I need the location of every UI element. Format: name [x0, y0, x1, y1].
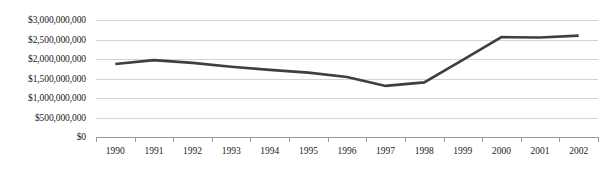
series-polyline — [115, 36, 578, 86]
x-axis-tick-label: 1991 — [144, 145, 163, 157]
x-axis-tick — [598, 137, 599, 142]
x-axis-tick-label: 1993 — [222, 145, 241, 157]
x-axis-tick-label: 1999 — [453, 145, 472, 157]
x-axis-tick-label: 1996 — [338, 145, 357, 157]
x-axis-tick — [366, 137, 367, 142]
y-axis-labels: $3,000,000,000$2,500,000,000$2,000,000,0… — [0, 0, 92, 172]
line-chart: $3,000,000,000$2,500,000,000$2,000,000,0… — [0, 0, 612, 172]
x-axis-tick — [135, 137, 136, 142]
x-axis-tick — [482, 137, 483, 142]
x-axis-tick — [212, 137, 213, 142]
x-axis-tick-label: 1997 — [376, 145, 395, 157]
x-axis-tick-label: 1990 — [106, 145, 125, 157]
x-axis-tick-label: 2002 — [569, 145, 588, 157]
y-axis-tick-label: $3,000,000,000 — [28, 15, 86, 25]
x-axis-tick — [250, 137, 251, 142]
x-axis-tick-label: 1992 — [183, 145, 202, 157]
x-axis-tick — [444, 137, 445, 142]
x-axis-tick-label: 1994 — [260, 145, 279, 157]
y-axis-tick-label: $500,000,000 — [35, 113, 86, 123]
plot-area — [96, 20, 598, 137]
x-axis-tick — [405, 137, 406, 142]
x-axis-tick — [559, 137, 560, 142]
x-axis-tick-label: 1998 — [415, 145, 434, 157]
y-axis-tick-label: $0 — [77, 132, 86, 142]
x-axis-tick — [289, 137, 290, 142]
x-axis-tick-label: 1995 — [299, 145, 318, 157]
x-axis-tick-label: 2001 — [531, 145, 550, 157]
x-axis-tick-label: 2000 — [492, 145, 511, 157]
x-axis-line — [96, 137, 598, 138]
y-axis-tick-label: $2,000,000,000 — [28, 54, 86, 64]
y-axis-tick-label: $2,500,000,000 — [28, 35, 86, 45]
x-axis-tick — [173, 137, 174, 142]
y-axis-tick-label: $1,500,000,000 — [28, 74, 86, 84]
x-axis-labels: 1990199119921993199419951996199719981999… — [96, 145, 598, 163]
x-axis-tick — [96, 137, 97, 142]
series-line — [96, 20, 598, 137]
x-axis-tick — [328, 137, 329, 142]
x-axis-tick — [521, 137, 522, 142]
y-axis-tick-label: $1,000,000,000 — [28, 93, 86, 103]
